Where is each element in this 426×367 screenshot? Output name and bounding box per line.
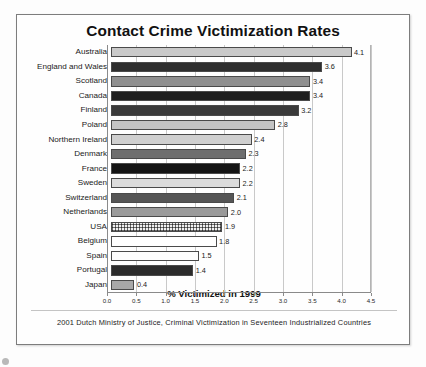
bar-cell: 4.1 — [111, 45, 393, 60]
category-label-usa: USA — [17, 223, 111, 231]
tick-label-1.0: 1.0 — [161, 297, 170, 304]
bar-row: Northern Ireland2.4 — [17, 132, 411, 147]
bar-row: Switzerland2.1 — [17, 190, 411, 205]
bar-row: Denmark2.3 — [17, 147, 411, 162]
tick-mark — [371, 293, 372, 296]
bar-value-label: 1.5 — [202, 252, 212, 259]
bar-value-label: 3.4 — [313, 92, 323, 99]
tick-mark — [283, 293, 284, 296]
bar-value-label: 2.4 — [254, 136, 264, 143]
category-label-finland: Finland — [17, 106, 111, 114]
bar-portugal[interactable] — [111, 265, 193, 275]
bar-france[interactable] — [111, 163, 240, 173]
category-label-belgium: Belgium — [17, 237, 111, 245]
category-label-australia: Australia — [17, 48, 111, 56]
bar-cell: 2.4 — [111, 132, 393, 147]
category-label-switzerland: Switzerland — [17, 194, 111, 202]
tick-mark — [254, 293, 255, 296]
bar-row: Canada3.4 — [17, 89, 411, 104]
bar-cell: 1.8 — [111, 234, 393, 249]
tick-label-1.5: 1.5 — [191, 297, 200, 304]
bar-switzerland[interactable] — [111, 193, 234, 203]
bar-japan[interactable] — [111, 280, 134, 290]
bar-row: England and Wales3.6 — [17, 60, 411, 75]
tick-label-2.5: 2.5 — [249, 297, 258, 304]
bar-row: Belgium1.8 — [17, 234, 411, 249]
chart-frame: Contact Crime Victimization Rates Austra… — [16, 14, 410, 345]
bar-value-label: 2.3 — [248, 150, 258, 157]
bar-value-label: 3.2 — [301, 107, 311, 114]
bar-cell: 2.0 — [111, 205, 393, 220]
tick-mark — [136, 293, 137, 296]
bar-value-label: 3.6 — [325, 63, 335, 70]
bar-row: Australia4.1 — [17, 45, 411, 60]
bar-sweden[interactable] — [111, 178, 240, 188]
tick-mark — [195, 293, 196, 296]
bar-cell: 3.4 — [111, 74, 393, 89]
category-label-portugal: Portugal — [17, 266, 111, 274]
bar-row: Spain1.5 — [17, 249, 411, 264]
tick-mark — [312, 293, 313, 296]
category-label-netherlands: Netherlands — [17, 208, 111, 216]
bar-northern-ireland[interactable] — [111, 134, 252, 144]
bar-row: Portugal1.4 — [17, 263, 411, 278]
bar-usa[interactable] — [111, 222, 222, 232]
bar-scotland[interactable] — [111, 76, 310, 86]
bar-cell: 2.2 — [111, 176, 393, 191]
bar-value-label: 0.4 — [137, 281, 147, 288]
tick-label-0.0: 0.0 — [103, 297, 112, 304]
bar-denmark[interactable] — [111, 149, 246, 159]
plot-area: Australia4.1England and Wales3.6Scotland… — [17, 45, 411, 313]
bar-value-label: 3.4 — [313, 78, 323, 85]
tick-label-4.0: 4.0 — [337, 297, 346, 304]
category-label-scotland: Scotland — [17, 77, 111, 85]
bar-row: Finland3.2 — [17, 103, 411, 118]
x-axis-ticks: 0.00.51.01.52.02.53.03.54.04.5 — [107, 293, 371, 307]
bar-value-label: 2.1 — [237, 194, 247, 201]
bar-cell: 2.3 — [111, 147, 393, 162]
bar-cell: 1.9 — [111, 220, 393, 235]
bar-cell: 2.1 — [111, 190, 393, 205]
bar-value-label: 4.1 — [354, 49, 364, 56]
bar-row: Sweden2.2 — [17, 176, 411, 191]
bar-cell: 1.4 — [111, 263, 393, 278]
bar-cell: 3.6 — [111, 60, 393, 75]
bar-cell: 2.8 — [111, 118, 393, 133]
bar-value-label: 2.0 — [231, 209, 241, 216]
category-label-sweden: Sweden — [17, 179, 111, 187]
source-divider — [31, 310, 397, 311]
bar-canada[interactable] — [111, 91, 310, 101]
bar-rows: Australia4.1England and Wales3.6Scotland… — [17, 45, 411, 292]
bar-value-label: 2.2 — [243, 180, 253, 187]
bar-value-label: 1.4 — [196, 267, 206, 274]
category-label-denmark: Denmark — [17, 150, 111, 158]
bar-spain[interactable] — [111, 251, 199, 261]
tick-label-2.0: 2.0 — [220, 297, 229, 304]
bar-netherlands[interactable] — [111, 207, 228, 217]
bar-value-label: 2.2 — [243, 165, 253, 172]
tick-label-3.0: 3.0 — [279, 297, 288, 304]
source-note: 2001 Dutch Ministry of Justice, Criminal… — [17, 318, 411, 327]
bar-cell: 3.2 — [111, 103, 393, 118]
bar-england-and-wales[interactable] — [111, 62, 322, 72]
chart-title: Contact Crime Victimization Rates — [17, 22, 409, 40]
category-label-england-and-wales: England and Wales — [17, 63, 111, 71]
category-label-spain: Spain — [17, 252, 111, 260]
tick-label-3.5: 3.5 — [308, 297, 317, 304]
bar-belgium[interactable] — [111, 236, 217, 246]
bar-australia[interactable] — [111, 47, 352, 57]
bar-row: France2.2 — [17, 161, 411, 176]
bar-value-label: 1.8 — [219, 238, 229, 245]
category-label-poland: Poland — [17, 121, 111, 129]
bar-poland[interactable] — [111, 120, 275, 130]
bar-row: Poland2.8 — [17, 118, 411, 133]
category-label-canada: Canada — [17, 92, 111, 100]
bar-value-label: 2.8 — [278, 121, 288, 128]
tick-mark — [166, 293, 167, 296]
bar-cell: 1.5 — [111, 249, 393, 264]
page-corner-mark — [2, 358, 9, 365]
bar-cell: 2.2 — [111, 161, 393, 176]
category-label-northern-ireland: Northern Ireland — [17, 136, 111, 144]
bar-row: Netherlands2.0 — [17, 205, 411, 220]
bar-finland[interactable] — [111, 105, 299, 115]
